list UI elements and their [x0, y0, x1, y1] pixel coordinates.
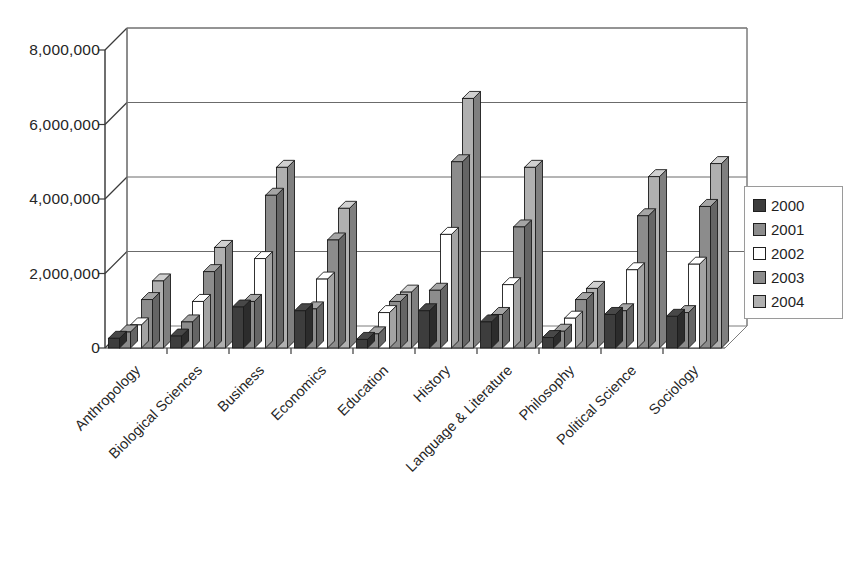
bar-side-face	[328, 272, 335, 348]
bar-front-face	[481, 322, 492, 348]
y-tick-connector	[105, 177, 127, 199]
bar	[419, 304, 437, 348]
legend-item-label: 2000	[771, 198, 804, 213]
bar-side-face	[153, 293, 160, 348]
legend-item[interactable]: 2000	[753, 193, 842, 217]
bar-front-face	[357, 339, 368, 348]
bar-side-face	[412, 285, 419, 348]
bar-side-face	[266, 252, 273, 348]
bar-group	[357, 285, 419, 348]
bar-side-face	[587, 293, 594, 348]
bar-side-face	[204, 294, 211, 348]
y-axis-tick-labels: 02,000,0004,000,0006,000,0008,000,000	[8, 0, 100, 569]
bar-side-face	[711, 199, 718, 348]
bar-front-face	[605, 314, 616, 348]
bar-group	[233, 160, 295, 348]
bar-front-face	[295, 311, 306, 348]
bar-side-face	[627, 304, 634, 348]
bar-front-face	[543, 338, 554, 348]
bar-side-face	[350, 201, 357, 348]
bar	[605, 307, 623, 348]
legend-swatch-icon	[753, 271, 766, 284]
legend-swatch-icon	[753, 295, 766, 308]
legend-swatch-icon	[753, 199, 766, 212]
legend-swatch-icon	[753, 223, 766, 236]
bar-side-face	[288, 160, 295, 348]
bar-side-face	[164, 274, 171, 348]
bar-side-face	[277, 188, 284, 348]
bar-side-face	[722, 157, 729, 348]
bar-chart: 02,000,0004,000,0006,000,0008,000,000 An…	[0, 0, 853, 569]
legend-item[interactable]: 2004	[753, 289, 842, 313]
bar-side-face	[339, 233, 346, 348]
legend-item-label: 2003	[771, 270, 804, 285]
bar-side-face	[306, 304, 313, 348]
bar-group	[419, 91, 481, 348]
legend-item[interactable]: 2003	[753, 265, 842, 289]
bar-group	[481, 160, 543, 348]
legend-item[interactable]: 2001	[753, 217, 842, 241]
bar-side-face	[441, 283, 448, 348]
bar	[481, 315, 499, 348]
bar-front-face	[109, 338, 120, 348]
bar-side-face	[474, 91, 481, 348]
bar-front-face	[667, 316, 678, 348]
bar-group	[171, 240, 233, 348]
y-tick-label: 0	[8, 339, 100, 357]
legend-item-label: 2004	[771, 294, 804, 309]
bar-side-face	[244, 300, 251, 348]
bar-group	[295, 201, 357, 348]
legend-item[interactable]: 2002	[753, 241, 842, 265]
bar	[667, 309, 685, 348]
bar-side-face	[430, 304, 437, 348]
bar-side-face	[700, 257, 707, 348]
bar-front-face	[233, 307, 244, 348]
bar-side-face	[452, 227, 459, 348]
bar-side-face	[463, 155, 470, 348]
bar-front-face	[419, 311, 430, 348]
bar-side-face	[255, 294, 262, 348]
bar-side-face	[215, 265, 222, 348]
bar-side-face	[598, 281, 605, 348]
y-tick-connector	[105, 103, 127, 125]
bar	[295, 304, 313, 348]
bar	[233, 300, 251, 348]
y-tick-label: 6,000,000	[8, 116, 100, 134]
bar-side-face	[660, 170, 667, 348]
bar-side-face	[638, 263, 645, 348]
y-tick-label: 4,000,000	[8, 190, 100, 208]
bar-group	[605, 170, 667, 348]
y-tick-connector	[105, 28, 127, 50]
bar-side-face	[536, 160, 543, 348]
y-tick-label: 2,000,000	[8, 265, 100, 283]
plot-area	[0, 0, 853, 569]
legend-swatch-icon	[753, 247, 766, 260]
bar-side-face	[401, 294, 408, 348]
bar-group	[109, 274, 171, 348]
bar-side-face	[525, 220, 532, 348]
legend-item-label: 2001	[771, 222, 804, 237]
bar-side-face	[317, 302, 324, 348]
bar-front-face	[171, 336, 182, 348]
bar-group	[543, 281, 605, 348]
y-tick-connector	[105, 252, 127, 274]
chart-legend: 20002001200220032004	[744, 186, 843, 319]
legend-item-label: 2002	[771, 246, 804, 261]
bar-side-face	[226, 240, 233, 348]
bar-side-face	[649, 209, 656, 348]
bar-group	[667, 157, 729, 348]
bar-side-face	[514, 278, 521, 348]
y-tick-label: 8,000,000	[8, 41, 100, 59]
